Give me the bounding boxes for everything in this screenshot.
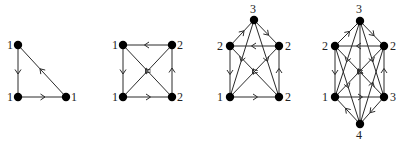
edge [335, 97, 360, 124]
graph-vertex [275, 93, 283, 101]
directed-graphs-figure: 111 1212 32212 322134 [0, 0, 398, 143]
graph-4: 322134 [322, 2, 396, 142]
graph-vertex [331, 42, 339, 50]
graph-vertex [380, 42, 388, 50]
graph-vertex [226, 93, 234, 101]
graph-vertex [331, 93, 339, 101]
graph-vertex [119, 41, 127, 49]
vertex-label: 1 [322, 90, 328, 104]
edge [360, 97, 384, 124]
vertex-label: 1 [71, 90, 77, 104]
graph-vertex [356, 120, 364, 128]
vertex-label: 2 [285, 39, 291, 53]
edge [18, 45, 66, 97]
vertex-label: 2 [285, 90, 291, 104]
graph-vertex [168, 41, 176, 49]
vertex-label: 1 [217, 90, 223, 104]
vertex-label: 1 [7, 90, 13, 104]
graph-vertex [14, 41, 22, 49]
vertex-label: 3 [356, 2, 362, 16]
vertex-label: 1 [112, 90, 118, 104]
graph-vertex [226, 42, 234, 50]
vertex-label: 1 [112, 38, 118, 52]
graph-1: 111 [7, 38, 77, 104]
graph-2: 1212 [112, 38, 183, 104]
vertex-label: 2 [390, 39, 396, 53]
graph-vertex [380, 93, 388, 101]
vertex-label: 2 [177, 90, 183, 104]
graph-vertex [356, 17, 364, 25]
vertex-label: 3 [250, 2, 256, 16]
graph-vertex [119, 93, 127, 101]
vertex-label: 2 [217, 39, 223, 53]
graph-3: 32212 [217, 2, 291, 104]
vertex-label: 4 [356, 128, 362, 142]
vertex-label: 2 [322, 39, 328, 53]
graph-vertex [168, 93, 176, 101]
graph-vertex [275, 42, 283, 50]
graph-vertex [14, 93, 22, 101]
vertex-label: 3 [390, 90, 396, 104]
graph-vertex [62, 93, 70, 101]
vertex-label: 2 [177, 38, 183, 52]
vertex-label: 1 [7, 38, 13, 52]
graph-vertex [250, 16, 258, 24]
